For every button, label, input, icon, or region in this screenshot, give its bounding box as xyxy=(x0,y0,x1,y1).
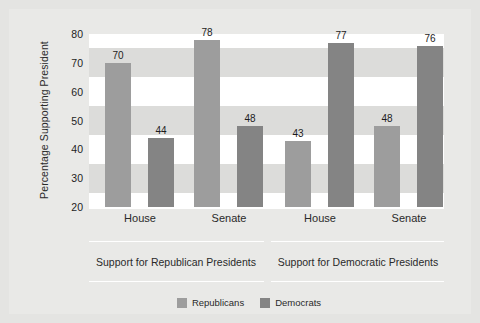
bar-dem-presidents-house-democrats xyxy=(328,43,354,207)
category-label-senate-1: Senate xyxy=(189,212,269,224)
legend-item-democrats: Democrats xyxy=(260,297,321,308)
category-label-senate-2: Senate xyxy=(369,212,449,224)
legend-label-republicans: Republicans xyxy=(192,297,244,308)
category-label-house-1: House xyxy=(100,212,180,224)
bar-value-48-senate: 48 xyxy=(367,113,407,124)
bar-rep-presidents-senate-democrats xyxy=(237,126,263,207)
bar-rep-presidents-senate-republicans xyxy=(194,40,220,207)
y-tick-60: 60 xyxy=(57,86,83,98)
y-tick-20: 20 xyxy=(57,201,83,213)
bar-value-70: 70 xyxy=(98,50,138,61)
group-rule-top-left xyxy=(89,241,264,242)
group-rule-bottom-right xyxy=(271,281,444,282)
bar-dem-presidents-house-republicans xyxy=(285,141,311,207)
bar-value-76: 76 xyxy=(410,33,450,44)
legend-label-democrats: Democrats xyxy=(275,297,321,308)
y-tick-30: 30 xyxy=(57,172,83,184)
legend-swatch-democrats-icon xyxy=(260,298,270,308)
y-axis-tick-labels: 80 70 60 50 40 30 20 xyxy=(53,34,83,207)
bar-rep-presidents-house-democrats xyxy=(148,138,174,207)
bar-value-48: 48 xyxy=(230,113,270,124)
y-tick-80: 80 xyxy=(57,28,83,40)
y-tick-40: 40 xyxy=(57,143,83,155)
bar-chart-figure: Percentage Supporting President 80 70 60… xyxy=(9,9,480,323)
group-rule-bottom-left xyxy=(89,281,264,282)
grid-band-1 xyxy=(89,48,444,77)
bar-rep-presidents-house-republicans xyxy=(105,63,131,207)
category-label-house-2: House xyxy=(280,212,360,224)
legend-swatch-republicans-icon xyxy=(177,298,187,308)
group-label-democratic-presidents: Support for Democratic Presidents xyxy=(243,256,473,268)
group-rule-top-right xyxy=(271,241,444,242)
bar-value-43: 43 xyxy=(278,128,318,139)
y-tick-50: 50 xyxy=(57,115,83,127)
x-axis-baseline xyxy=(89,207,444,209)
bar-value-77: 77 xyxy=(321,30,361,41)
bar-dem-presidents-senate-democrats xyxy=(417,46,443,208)
y-tick-70: 70 xyxy=(57,57,83,69)
legend-item-republicans: Republicans xyxy=(177,297,244,308)
figure-frame: Percentage Supporting President 80 70 60… xyxy=(0,0,480,323)
chart-legend: Republicans Democrats xyxy=(9,297,480,308)
bar-dem-presidents-senate-republicans xyxy=(374,126,400,207)
y-axis-title: Percentage Supporting President xyxy=(38,25,50,215)
bar-value-44: 44 xyxy=(141,125,181,136)
bar-value-78: 78 xyxy=(187,27,227,38)
